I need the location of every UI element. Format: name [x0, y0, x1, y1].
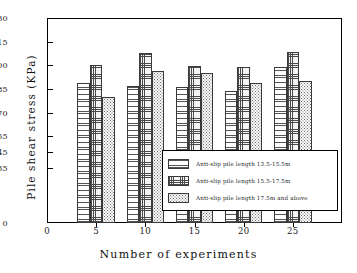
bar-series-1-group-10: [127, 86, 140, 223]
y-tick-label: 0: [3, 219, 8, 228]
x-tick-label: 15: [189, 226, 200, 236]
bar-series-2-group-5: [90, 65, 103, 223]
x-tick-label: 5: [93, 226, 99, 236]
x-tick-label: 10: [140, 226, 151, 236]
bar-series-1-group-5: [77, 83, 90, 223]
chart-legend: Anti-slip pile length 13.5-15.5mAnti-sli…: [162, 150, 338, 211]
legend-label: Anti-slip pile length 13.5-15.5m: [196, 161, 290, 167]
y-axis-title: Pile shear stress (KPa): [25, 32, 37, 222]
legend-label: Anti-slip pile length 15.5-17.5m: [196, 178, 290, 184]
x-tick-mark: [96, 223, 97, 227]
x-tick-mark: [244, 223, 245, 227]
bar-series-2-group-10: [139, 53, 152, 223]
legend-swatch-3: [168, 193, 189, 203]
bar-series-3-group-5: [102, 97, 115, 223]
x-tick-label: 0: [44, 226, 50, 236]
bar-chart: Pile shear stress (KPa) Number of experi…: [0, 0, 357, 273]
y-tick-label: 55: [0, 132, 8, 141]
y-tick-label: 35: [0, 163, 8, 172]
x-tick-mark: [195, 223, 196, 227]
y-tick-label: 115: [0, 37, 8, 46]
x-tick-label: 25: [287, 226, 298, 236]
y-tick-label: 130: [0, 14, 8, 23]
y-tick-label: 45: [0, 148, 8, 157]
x-tick-mark: [145, 223, 146, 227]
legend-item: Anti-slip pile length 17.5m and above: [168, 189, 333, 206]
legend-item: Anti-slip pile length 15.5-17.5m: [168, 172, 333, 189]
y-tick-label: 100: [0, 61, 8, 70]
x-tick-mark: [293, 223, 294, 227]
legend-label: Anti-slip pile length 17.5m and above: [196, 195, 308, 201]
y-tick-label: 70: [0, 108, 8, 117]
x-axis-title: Number of experiments: [0, 248, 357, 261]
legend-swatch-2: [168, 176, 189, 186]
x-tick-label: 20: [238, 226, 249, 236]
legend-swatch-1: [168, 159, 189, 169]
legend-item: Anti-slip pile length 13.5-15.5m: [168, 155, 333, 172]
y-tick-label: 85: [0, 84, 8, 93]
